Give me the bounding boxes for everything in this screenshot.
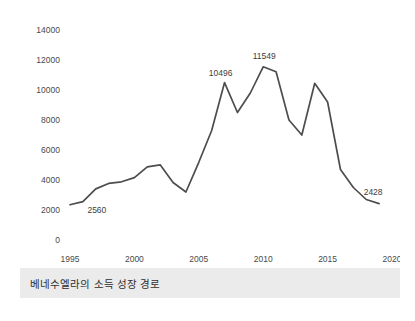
y-axis-tick-label: 8000 [41,115,60,125]
data-point-value-label: 2560 [87,205,106,215]
y-axis-tick-label: 4000 [41,175,60,185]
data-point-value-label: 10496 [209,68,233,78]
chart-plot-area: 02000400060008000100001200014000 1995200… [20,18,400,268]
data-value-labels: 256010496115492428 [87,51,382,215]
x-axis-tick-label: 2010 [254,254,273,264]
x-axis-tick-label: 2000 [125,254,144,264]
y-axis-tick-label: 10000 [36,85,60,95]
y-axis: 02000400060008000100001200014000 [36,25,60,245]
y-axis-tick-label: 6000 [41,145,60,155]
caption-bar: 베네수엘라의 소득 성장 경로 [20,268,400,298]
data-point-value-label: 2428 [364,187,383,197]
x-axis-tick-label: 2020 [383,254,400,264]
caption-label: 베네수엘라의 소득 성장 경로 [20,276,160,291]
x-axis: 199520002005201020152020 [61,254,400,264]
y-axis-tick-label: 14000 [36,25,60,35]
y-axis-tick-label: 2000 [41,205,60,215]
income-series-line [70,67,379,205]
data-point-value-label: 11549 [253,51,276,61]
income-growth-line-chart: 02000400060008000100001200014000 1995200… [20,18,400,268]
x-axis-tick-label: 1995 [61,254,80,264]
x-axis-tick-label: 2005 [189,254,208,264]
y-axis-tick-label: 12000 [36,55,60,65]
x-axis-tick-label: 2015 [318,254,337,264]
y-axis-tick-label: 0 [55,235,60,245]
chart-card: 02000400060008000100001200014000 1995200… [20,18,400,298]
